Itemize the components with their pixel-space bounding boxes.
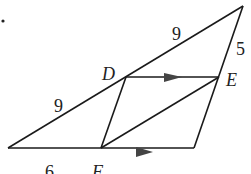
point-label-f: F	[91, 162, 104, 174]
point-label-d: D	[101, 64, 115, 84]
segment-fe	[101, 77, 219, 148]
length-label: 9	[172, 24, 181, 44]
parallel-arrow-icon	[164, 73, 182, 82]
segment-df	[101, 77, 126, 148]
bullet-dot	[1, 19, 4, 22]
length-label: 6	[45, 162, 54, 174]
length-label: 9	[54, 96, 63, 116]
point-label-e: E	[225, 70, 237, 90]
length-label: 5	[236, 39, 245, 59]
geometry-diagram: 9 5 9 6 D E F	[0, 0, 251, 174]
